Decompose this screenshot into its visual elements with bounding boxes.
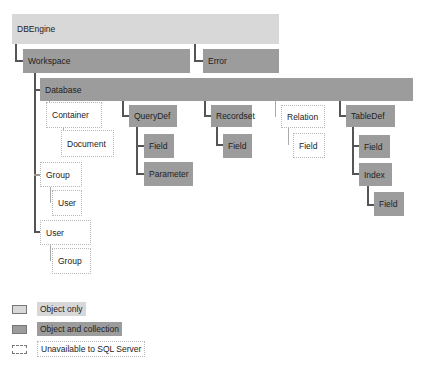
node-label: Field [228, 141, 246, 151]
node-label: Workspace [28, 56, 70, 66]
legend-label-unavailable: Unavailable to SQL Server [37, 341, 145, 357]
connector [367, 186, 369, 206]
connector [50, 245, 51, 261]
legend-swatch-collection [12, 325, 27, 334]
node-user: User [40, 220, 91, 245]
node-label: Field [364, 142, 382, 152]
legend-swatch-unavailable [12, 345, 27, 354]
node-container: Container [46, 102, 102, 128]
node-recordset: Recordset [211, 105, 252, 127]
connector [339, 115, 346, 117]
node-recordset-field: Field [223, 134, 252, 158]
node-label: Index [364, 170, 385, 180]
connector [136, 127, 138, 175]
node-label: Group [58, 256, 82, 266]
node-group-user: User [52, 190, 82, 216]
node-label: DBEngine [17, 24, 55, 34]
node-dbengine: DBEngine [12, 14, 279, 44]
legend-label-collection: Object and collection [37, 322, 122, 336]
connector [34, 73, 36, 233]
node-label: User [58, 198, 76, 208]
node-relation-field: Field [293, 133, 325, 158]
connector [275, 101, 276, 117]
node-tabledef: TableDef [346, 105, 395, 127]
node-label: Error [208, 56, 227, 66]
connector [352, 127, 354, 175]
node-label: Database [45, 85, 81, 95]
connector [216, 144, 223, 146]
node-label: Document [67, 139, 106, 149]
legend-text: Unavailable to SQL Server [41, 344, 141, 354]
node-querydef: QueryDef [129, 105, 177, 127]
node-parameter: Parameter [144, 162, 193, 186]
legend-label-object: Object only [37, 302, 86, 316]
connector [352, 145, 359, 147]
node-label: Field [379, 199, 397, 209]
connector [204, 115, 211, 117]
node-group: Group [40, 162, 82, 187]
node-database: Database [40, 78, 413, 101]
node-label: TableDef [351, 111, 385, 121]
node-label: Group [46, 170, 70, 180]
node-label: Recordset [216, 111, 255, 121]
node-querydef-field: Field [144, 134, 174, 158]
node-label: Field [149, 141, 167, 151]
connector [367, 204, 374, 206]
node-label: Parameter [149, 169, 189, 179]
connector [288, 128, 289, 145]
node-index: Index [359, 163, 392, 186]
node-document: Document [61, 130, 114, 157]
node-label: Relation [287, 112, 318, 122]
connector [136, 145, 144, 147]
node-index-field: Field [374, 192, 404, 216]
connector [136, 173, 144, 175]
legend-swatch-object [12, 305, 27, 314]
node-label: Container [52, 110, 89, 120]
legend-text: Object only [40, 304, 83, 314]
node-user-group: Group [52, 248, 91, 274]
node-label: Field [299, 141, 317, 151]
connector [122, 115, 129, 117]
node-error: Error [203, 49, 279, 73]
node-relation: Relation [281, 105, 325, 128]
legend-text: Object and collection [40, 324, 119, 334]
connector [50, 187, 51, 203]
node-workspace: Workspace [23, 49, 190, 73]
node-tabledef-field: Field [359, 135, 390, 158]
connector [194, 60, 203, 62]
node-label: QueryDef [134, 111, 170, 121]
node-label: User [46, 228, 64, 238]
connector [15, 60, 23, 62]
connector [352, 173, 359, 175]
